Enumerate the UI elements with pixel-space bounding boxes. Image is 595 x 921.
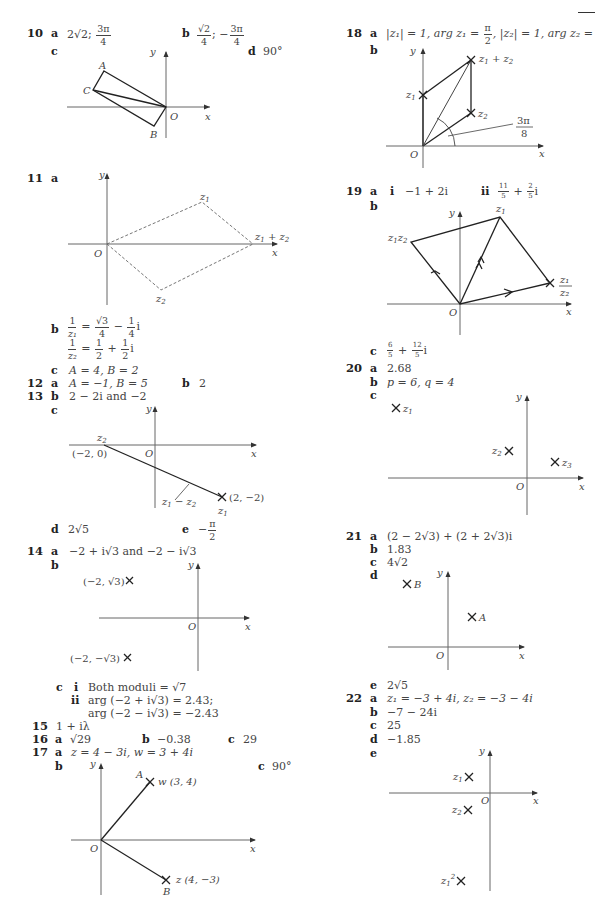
y-label: y [478,745,485,756]
origin-label: O [481,795,489,806]
point-z1-cross-icon [465,773,473,781]
x-label: x [533,795,539,806]
z1-label: z1 [452,771,463,784]
z2-label: z2 [451,804,462,817]
point-z2-cross-icon [464,806,472,814]
argand-diagram-22: y x O z1 z2 z12 [0,0,595,921]
z1-squared-label: z12 [440,873,456,888]
point-z1-squared-cross-icon [457,877,465,885]
y-axis-arrow-icon [488,750,493,756]
